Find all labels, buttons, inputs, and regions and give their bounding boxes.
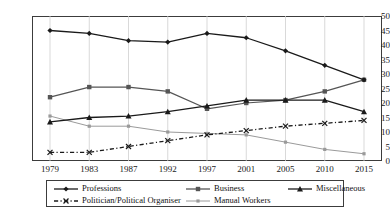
- x-axis-tick-label: 1983: [80, 164, 98, 174]
- x-axis-tick-label: 1979: [41, 164, 59, 174]
- legend-item[interactable]: Politician/Political Organiser: [53, 194, 181, 207]
- data-point-marker: [204, 31, 209, 36]
- data-point-marker: [88, 125, 91, 128]
- x-axis-tick-label: 2015: [355, 164, 373, 174]
- data-point-marker: [47, 28, 52, 33]
- line-chart-plot: [32, 16, 382, 161]
- data-point-marker: [165, 40, 170, 45]
- data-point-marker: [362, 152, 365, 155]
- data-point-marker: [48, 95, 52, 99]
- data-point-marker: [196, 199, 199, 202]
- data-point-marker: [126, 38, 131, 43]
- legend-swatch-square-icon: [185, 183, 211, 195]
- data-point-marker: [166, 130, 169, 133]
- legend-item-label: Professions: [82, 184, 121, 193]
- legend-item[interactable]: Manual Workers: [185, 194, 271, 207]
- chart-container: 50454035302520151050 1979198319871992199…: [0, 0, 390, 210]
- data-point-marker: [284, 141, 287, 144]
- data-point-marker: [323, 89, 327, 93]
- data-point-marker: [196, 186, 200, 190]
- x-axis-tick-label: 1992: [159, 164, 177, 174]
- legend-item-label: Business: [214, 184, 244, 193]
- data-point-marker: [322, 63, 327, 68]
- legend-row-bottom: Politician/Political OrganiserManual Wor…: [47, 194, 343, 207]
- data-point-marker: [126, 85, 130, 89]
- x-axis-tick-label: 2010: [316, 164, 334, 174]
- data-point-marker: [166, 89, 170, 93]
- legend-item-label: Miscellaneous: [316, 184, 365, 193]
- data-point-marker: [127, 125, 130, 128]
- data-point-marker: [87, 85, 91, 89]
- data-point-marker: [63, 186, 68, 191]
- x-axis-tick-label: 1987: [120, 164, 138, 174]
- x-axis-tick-label: 2001: [237, 164, 255, 174]
- data-point-marker: [323, 148, 326, 151]
- data-point-marker: [48, 114, 51, 117]
- data-point-marker: [244, 35, 249, 40]
- legend-swatch-cross-icon: [53, 195, 79, 207]
- legend-swatch-small-square-icon: [185, 195, 211, 207]
- data-point-marker: [87, 31, 92, 36]
- legend-item-label: Manual Workers: [214, 196, 271, 205]
- data-point-marker: [283, 48, 288, 53]
- data-point-marker: [245, 133, 248, 136]
- chart-legend: ProfessionsBusinessMiscellaneous Politic…: [46, 180, 344, 207]
- legend-item-label: Politician/Political Organiser: [82, 196, 181, 205]
- legend-swatch-diamond-icon: [53, 183, 79, 195]
- x-axis-tick-label: 2005: [277, 164, 295, 174]
- legend-swatch-triangle-icon: [287, 183, 313, 195]
- x-axis-tick-label: 1997: [198, 164, 216, 174]
